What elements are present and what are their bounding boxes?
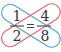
loop-1-8 xyxy=(0,1,61,50)
cross-loops xyxy=(0,0,61,52)
cross-multiplication-diagram: 1 2 4 8 xyxy=(0,0,61,52)
left-numerator: 1 xyxy=(12,9,22,23)
loop-4-2 xyxy=(0,1,61,50)
right-denominator: 8 xyxy=(40,29,50,43)
left-denominator: 2 xyxy=(12,29,22,43)
right-numerator: 4 xyxy=(40,9,50,23)
